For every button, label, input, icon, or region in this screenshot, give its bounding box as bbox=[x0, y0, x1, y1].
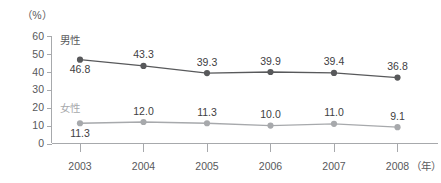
y-axis-tick-label: 20 bbox=[32, 101, 44, 113]
male-data-label: 36.8 bbox=[387, 60, 408, 72]
chart-canvas: （%） 0102030405060 2003200420052006200720… bbox=[0, 0, 441, 183]
female-data-point bbox=[267, 122, 273, 128]
male-data-point bbox=[331, 70, 337, 76]
female-series-line bbox=[80, 122, 398, 127]
male-data-label: 39.4 bbox=[324, 55, 345, 67]
series-male: 46.843.339.339.939.436.8 bbox=[70, 48, 408, 80]
male-data-point bbox=[394, 74, 400, 80]
female-data-point bbox=[394, 124, 400, 130]
y-axis-unit-label: （%） bbox=[22, 9, 52, 21]
female-data-label: 11.0 bbox=[324, 106, 344, 118]
male-data-label: 43.3 bbox=[133, 48, 154, 60]
male-data-point bbox=[140, 63, 146, 69]
female-data-label: 12.0 bbox=[133, 105, 154, 117]
male-data-label: 39.3 bbox=[197, 56, 218, 68]
x-axis-unit-label: （年） bbox=[411, 160, 441, 172]
female-series-data-labels: 11.312.011.310.011.09.1 bbox=[70, 105, 405, 139]
y-axis-tick-label: 40 bbox=[32, 66, 44, 78]
x-axis-tick-label: 2008 bbox=[386, 160, 410, 172]
y-axis-tick-label: 60 bbox=[32, 30, 44, 42]
male-data-label: 46.8 bbox=[70, 63, 91, 75]
x-axis-tick-label: 2004 bbox=[132, 160, 156, 172]
x-axis-tick-label: 2005 bbox=[195, 160, 219, 172]
male-series-line bbox=[80, 60, 398, 78]
y-axis-tick-label: 30 bbox=[32, 83, 44, 95]
female-data-label: 11.3 bbox=[70, 127, 90, 139]
x-axis-tick-marks bbox=[80, 144, 398, 153]
x-axis-tick-label: 2006 bbox=[259, 160, 283, 172]
line-chart: （%） 0102030405060 2003200420052006200720… bbox=[0, 0, 441, 183]
y-axis-tick-label: 10 bbox=[32, 119, 44, 131]
male-data-point bbox=[77, 57, 83, 63]
female-data-point bbox=[204, 120, 210, 126]
female-data-point bbox=[77, 120, 83, 126]
female-data-point bbox=[331, 121, 337, 127]
female-data-label: 10.0 bbox=[260, 108, 281, 120]
x-axis-tick-label: 2007 bbox=[322, 160, 346, 172]
y-axis-tick-label: 50 bbox=[32, 48, 44, 60]
y-axis-tick-marks bbox=[47, 37, 52, 145]
x-axis-tick-labels: 200320042005200620072008 bbox=[68, 160, 409, 172]
male-data-point bbox=[204, 70, 210, 76]
male-series-markers bbox=[77, 57, 401, 81]
male-data-point bbox=[267, 69, 273, 75]
legend-label-male: 男性 bbox=[60, 34, 80, 46]
y-axis-tick-label: 0 bbox=[38, 137, 44, 149]
legend-label-female: 女性 bbox=[60, 102, 80, 114]
unit-labels-group: （%） bbox=[22, 9, 52, 21]
female-data-point bbox=[140, 119, 146, 125]
female-data-label: 11.3 bbox=[197, 106, 217, 118]
male-data-label: 39.9 bbox=[260, 55, 281, 67]
male-series-data-labels: 46.843.339.339.939.436.8 bbox=[70, 48, 408, 75]
female-data-label: 9.1 bbox=[390, 110, 405, 122]
x-axis-tick-label: 2003 bbox=[68, 160, 92, 172]
series-female: 11.312.011.310.011.09.1 bbox=[70, 105, 405, 139]
y-axis-tick-labels: 0102030405060 bbox=[32, 30, 44, 150]
